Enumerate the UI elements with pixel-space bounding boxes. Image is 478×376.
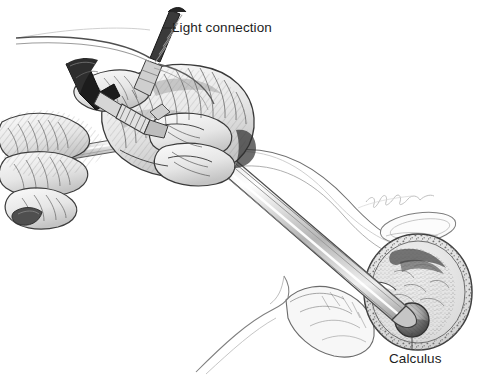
medical-illustration-figure: Light connection Calculus xyxy=(0,0,478,376)
calculus-label: Calculus xyxy=(389,352,442,366)
light-connection-label: Light connection xyxy=(172,21,272,35)
illustration-artwork xyxy=(0,0,478,376)
